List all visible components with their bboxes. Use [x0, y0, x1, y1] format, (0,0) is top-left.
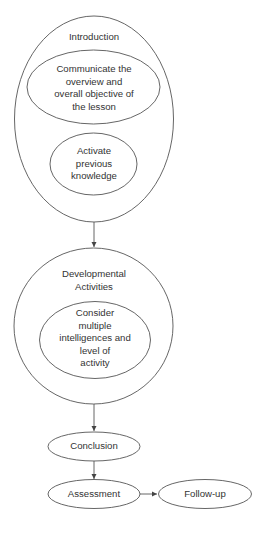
developmental-title: Developmental Activities — [44, 268, 144, 293]
communicate-label: Communicate the overview and overall obj… — [34, 63, 154, 113]
introduction-title: Introduction — [44, 31, 144, 44]
introduction-node — [15, 16, 174, 222]
consider-label: Consider multiple intelligences and leve… — [45, 307, 145, 370]
conclusion-label: Conclusion — [48, 440, 140, 453]
assessment-label: Assessment — [48, 488, 140, 501]
followup-label: Follow-up — [159, 488, 251, 501]
activate-label: Activate previous knowledge — [54, 145, 134, 183]
